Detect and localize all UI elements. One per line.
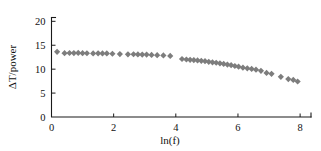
data-point [148, 52, 154, 58]
x-tick-label: 2 [111, 122, 116, 133]
axis-spines [52, 18, 312, 118]
axes [52, 18, 312, 118]
x-axis-title: ln(f) [160, 134, 180, 147]
data-points [54, 49, 301, 85]
data-point [258, 68, 264, 74]
data-point [278, 74, 284, 80]
axis-tick-labels: 0246805101520 [35, 16, 303, 133]
data-point [253, 67, 259, 73]
scatter-plot: 0246805101520 ln(f) ΔT/power [0, 0, 321, 151]
x-tick-label: 4 [173, 122, 179, 133]
data-point [285, 76, 291, 82]
y-tick-label: 20 [35, 16, 46, 27]
y-tick-label: 15 [35, 40, 46, 51]
x-tick-label: 0 [49, 122, 54, 133]
y-axis-title: ΔT/power [6, 44, 18, 89]
data-point [125, 51, 131, 57]
data-point [268, 71, 274, 77]
x-tick-label: 6 [235, 122, 240, 133]
data-point [263, 70, 269, 76]
data-point [104, 50, 110, 56]
data-point [117, 51, 123, 57]
y-tick-label: 0 [40, 112, 45, 123]
chart-figure: 0246805101520 ln(f) ΔT/power [0, 0, 321, 151]
data-point [160, 52, 166, 58]
y-tick-label: 10 [35, 64, 46, 75]
data-point [109, 51, 115, 57]
data-point [167, 53, 173, 59]
data-point [154, 52, 160, 58]
x-tick-label: 8 [297, 122, 302, 133]
axis-ticks [52, 21, 301, 117]
data-point [84, 50, 90, 56]
y-tick-label: 5 [40, 88, 45, 99]
data-point [54, 49, 60, 55]
